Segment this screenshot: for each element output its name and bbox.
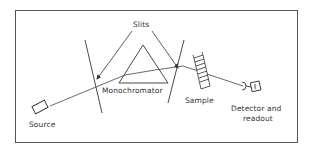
detector-label-line2: readout	[243, 114, 273, 123]
monochromator-label: Monochromator	[102, 86, 163, 95]
source-icon	[32, 100, 48, 114]
slits-label: Slits	[133, 20, 149, 29]
prism-icon	[119, 45, 168, 83]
detector-label-line1: Detector and	[231, 104, 281, 113]
source-label: Source	[29, 120, 55, 129]
entrance-slit-icon	[85, 40, 102, 113]
slits-pointer-arrows	[97, 31, 178, 79]
sample-label: Sample	[185, 96, 214, 105]
exit-slit-icon	[168, 40, 184, 103]
detector-icon	[242, 81, 261, 92]
